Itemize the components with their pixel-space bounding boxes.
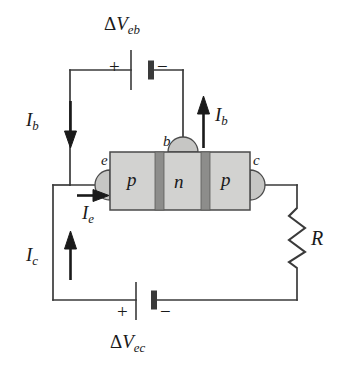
base-battery-minus-sign: − (157, 57, 168, 76)
resistor-label: R (311, 228, 323, 248)
base-battery-negative-plate (149, 61, 154, 79)
base-current-left-arrow-head (65, 131, 77, 148)
collector-current-label: Ic (26, 245, 38, 268)
collector-terminal-label: c (253, 153, 260, 168)
base-current-right-label: Ib (215, 105, 228, 128)
collector-battery-delta: Δ (110, 331, 122, 352)
collector-current-arrow-head (65, 231, 77, 249)
collector-battery-subscript: ec (134, 340, 145, 355)
collector-battery-symbol (136, 282, 157, 320)
base-battery-voltage-label: ΔVeb (104, 14, 140, 37)
base-battery-delta: Δ (104, 13, 116, 34)
base-battery-v: V (116, 13, 128, 34)
circuit-schematic-canvas (0, 0, 342, 372)
base-battery-symbol (131, 50, 154, 90)
resistor-zigzag (289, 208, 305, 268)
collector-battery-negative-plate (152, 291, 157, 309)
base-collector-junction (201, 152, 210, 210)
emitter-base-junction (155, 152, 164, 210)
emitter-current-label: Ie (82, 203, 94, 226)
collector-contact-bump (250, 170, 265, 200)
base-terminal-label: b (163, 134, 171, 149)
collector-current-subscript: c (32, 253, 38, 268)
collector-battery-voltage-label: ΔVec (110, 332, 145, 355)
base-current-right-arrow-head (198, 96, 210, 114)
circuit-diagram-figure: ΔVeb + − ΔVec + − Ib Ib Ie Ic R e b c p … (0, 0, 342, 372)
base-battery-plus-sign: + (109, 57, 120, 76)
base-current-left-subscript: b (32, 118, 38, 133)
collector-battery-v: V (122, 331, 134, 352)
collector-region-label: p (221, 170, 231, 189)
emitter-terminal-label: e (101, 153, 108, 168)
base-current-left-label: Ib (26, 110, 39, 133)
collector-battery-plus-sign: + (117, 302, 128, 321)
collector-battery-minus-sign: − (160, 302, 171, 321)
base-current-right-subscript: b (221, 113, 227, 128)
emitter-region-label: p (127, 170, 137, 189)
emitter-current-subscript: e (88, 211, 94, 226)
base-battery-subscript: eb (128, 22, 140, 37)
base-contact-bump (168, 137, 198, 152)
base-region-label: n (174, 172, 184, 191)
